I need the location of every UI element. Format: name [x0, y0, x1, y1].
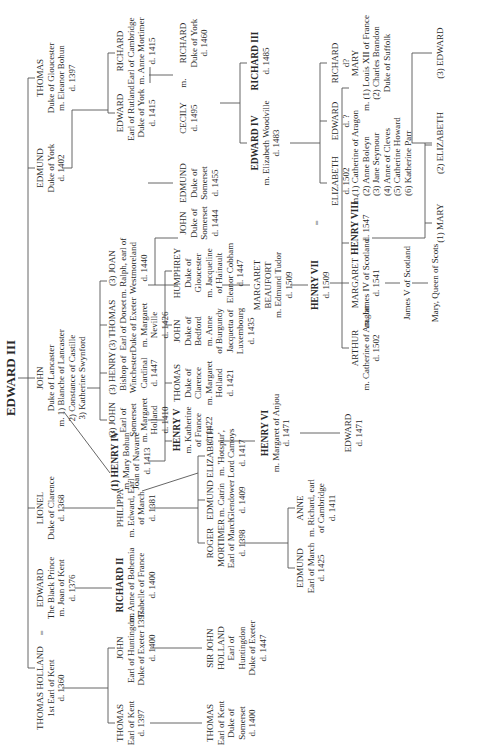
node-edward-black-prince: EDWARDThe Black Princem. Joan of Kentd. … [35, 557, 77, 619]
node-john-duke-somerset: JOHNDuke ofSomersetd. 1444 [178, 206, 220, 240]
node-richard-unknown: RICHARDd? [330, 43, 351, 84]
node-cecily: CECILYd. 1495 [178, 102, 199, 134]
node-edward-iv: EDWARD IVm. Elizabeth Woodvilled. 1483 [250, 101, 282, 186]
node-humphrey: HUMPHREYDuke ofGloucesterm. Jacquelineof… [172, 243, 246, 304]
node-mary-i: (1) MARY [435, 203, 446, 242]
node-lionel: LIONELDuke of Clarenced. 1368 [35, 476, 67, 539]
node-edmund-duke-somerset: EDMUNDDuke ofSomersetd. 1455 [178, 163, 220, 203]
node-henry-viii: HENRY VIIId. 1547 [350, 201, 371, 255]
marriage-mark: m. [350, 195, 360, 204]
node-thomas-clarence: THOMASDuke ofClarencem. MargaretHollandd… [172, 361, 235, 405]
node-thomas-kent: THOMASEarl of Kentd. 1397 [115, 701, 147, 745]
node-margaret-beaufort: MARGARETBEAUFORTm. Edmund Tudord. 1509 [252, 252, 294, 318]
node-john-somerset: (3) JOHNEarl ofSomersetm. MargaretHollan… [107, 398, 170, 442]
node-henry-vii: HENRY VIId. 1509 [310, 260, 331, 310]
node-edward-vi: (3) EDWARD [435, 27, 446, 78]
node-henry-vi: HENRY VIm. Margaret of Anjoud. 1471 [260, 394, 292, 472]
node-henry-viii-wives: (1) Catherine of Aragon(2) Anne Boleyn(3… [350, 110, 413, 196]
node-john-bedford: JOHNDuke ofBedfordm. Anneof BurgundyJacq… [172, 308, 256, 354]
marriage-mark: = [312, 220, 322, 225]
node-edward-1471: EDWARDd. 1471 [343, 414, 364, 453]
node-richard-ii: RICHARD IIm. Anne of BohemiaIsabelle of … [115, 548, 157, 623]
node-james-v: James V of Scotland [402, 246, 413, 320]
marriage-mark: m. [178, 78, 188, 87]
node-elizabeth-i: (2) ELIZABETH [435, 112, 446, 174]
node-henry-cardinal: (3) HENRYBishop ofWinchesterCardinald. 1… [107, 351, 160, 394]
node-john-of-gaunt: JOHNDuke of Lancasterm. 1) Blanche of La… [35, 329, 88, 427]
node-joan: (3) JOANm. Ralph, earl ofWestmorelandd. … [107, 238, 149, 299]
node-edmund-earl-march: EDMUNDEarl of Marchd. 1425 [295, 543, 327, 593]
node-mary-tudor: MARYm. (1) Louis XII of France(2) Charle… [350, 15, 392, 111]
node-mary-queen-of-scots: Mary, Queen of Scots [430, 244, 441, 322]
node-thomas-holland: THOMAS HOLLAND1st Earl of Kentd. 1360 [35, 646, 67, 730]
node-edward-unknown: EDWARDd. ? [330, 102, 351, 141]
root-title: EDWARD III [3, 340, 19, 416]
marriage-mark: = [37, 630, 47, 635]
node-edmund-mortimer: EDMUNDm. CatrinGlendowerd. 1409 [205, 480, 247, 520]
node-henry-v: HENRY Vm. Katherineof Franced. 1422 [172, 407, 214, 454]
node-anne-mortimer: ANNEm. Richard, earlof Cambridged. 1411 [295, 479, 337, 537]
node-edmund-york: EDMUNDDuke of Yorkd. 1402 [35, 144, 67, 193]
node-thomas-kent-somerset: THOMASEarl of KentDuke ofSomersetd. 1400 [205, 701, 258, 745]
node-thomas-dorset: (3) THOMASEarl of DorsetDuke of Exeterm.… [107, 298, 170, 353]
node-richard-cambridge: RICHARDEarl of Cambridgem. Anne Mortimer… [115, 17, 157, 84]
node-richard-iii: RICHARD IIId. 1485 [250, 32, 271, 91]
node-richard-duke-york: RICHARDDuke of Yorkd. 1460 [178, 19, 210, 68]
node-thomas-gloucester: THOMASDuke of Gloucesterm. Eleanor Bohun… [35, 43, 77, 113]
node-sir-john-holland: SIR JOHNHOLLANDEarl ofHuntingdonDuke of … [205, 621, 268, 676]
node-elizabeth-york: ELIZABETHd. 1502 [330, 156, 351, 206]
node-edward-rutland: EDWARDEarl of RutlandDuke of Yorkd. 1415 [115, 85, 157, 141]
node-roger-mortimer: ROGERMORTIMEREarl of Marchd. 1398 [205, 518, 247, 568]
